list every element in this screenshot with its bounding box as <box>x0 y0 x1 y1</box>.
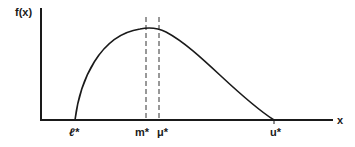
x-axis-label: x <box>337 114 344 126</box>
tick-label-mu-star: μ* <box>157 126 169 138</box>
tick-label-m-star: m* <box>135 126 150 138</box>
tick-label-u-star: u* <box>270 126 282 138</box>
density-curve <box>75 28 274 120</box>
tick-label-l-star: ℓ* <box>69 126 80 138</box>
density-diagram: f(x) x ℓ* m* μ* u* <box>0 0 355 147</box>
y-axis-label: f(x) <box>15 6 32 18</box>
